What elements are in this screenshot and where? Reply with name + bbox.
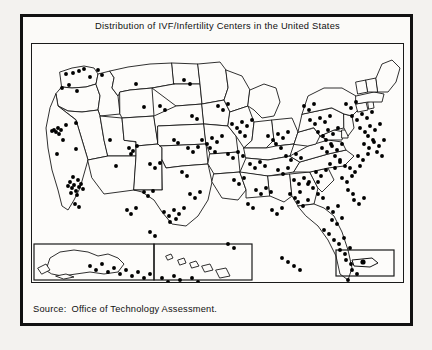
ivf-center-dot [226, 242, 230, 246]
ivf-center-dot [279, 146, 283, 150]
ivf-center-dot [50, 129, 54, 133]
source-note: Source:Office of Technology Assessment. [33, 304, 217, 314]
ivf-center-dot [73, 202, 77, 206]
ivf-center-dot [180, 170, 184, 174]
ivf-center-dot [88, 75, 92, 79]
ivf-center-dot [338, 248, 342, 252]
ivf-center-dot [67, 83, 71, 87]
ivf-center-dot [296, 200, 300, 204]
ivf-center-dot [363, 130, 367, 134]
ivf-center-dot [61, 138, 65, 142]
ivf-center-dot [215, 140, 219, 144]
ivf-center-dot [193, 196, 197, 200]
ivf-center-dot [64, 72, 68, 76]
ivf-center-dot [361, 158, 365, 162]
ivf-center-dot [342, 236, 346, 240]
ivf-center-dot [220, 134, 224, 138]
ivf-center-dot [301, 204, 305, 208]
ivf-center-dot [333, 154, 337, 158]
ivf-center-dot [328, 162, 332, 166]
ivf-center-dot [64, 123, 68, 127]
ivf-center-dot [114, 164, 118, 168]
ivf-center-dot [286, 166, 290, 170]
ivf-center-dot [357, 202, 361, 206]
ivf-center-dot [88, 264, 92, 268]
ivf-center-dot [70, 186, 74, 190]
ivf-center-dot [348, 166, 352, 170]
ivf-center-dot [167, 214, 171, 218]
ivf-center-dot [338, 160, 342, 164]
ivf-center-dot [269, 190, 273, 194]
ivf-center-dot [343, 252, 347, 256]
ivf-center-dot [235, 126, 239, 130]
ivf-center-dot [82, 67, 86, 71]
ivf-center-dot [160, 276, 164, 280]
ivf-center-dot [355, 118, 359, 122]
ivf-center-dot [324, 168, 328, 172]
ivf-center-dot [348, 246, 352, 250]
ivf-center-dot [327, 232, 331, 236]
ivf-center-dot [134, 82, 138, 86]
ivf-center-dot [71, 175, 75, 179]
ivf-center-dot [258, 160, 262, 164]
ivf-center-dot [198, 190, 202, 194]
ivf-center-dot [326, 206, 330, 210]
ivf-center-dot [302, 176, 306, 180]
ivf-center-dot [316, 130, 320, 134]
ivf-center-dot [349, 106, 353, 110]
ivf-center-dot [323, 120, 327, 124]
ivf-center-dot [130, 274, 134, 278]
ivf-center-dot [151, 189, 155, 193]
ivf-center-dot [135, 144, 139, 148]
ivf-center-dot [251, 206, 255, 210]
ivf-center-dot [96, 68, 100, 72]
state-outlines [46, 60, 400, 280]
ivf-center-dot [313, 122, 317, 126]
ivf-center-dot [178, 278, 182, 282]
ivf-center-dot [230, 122, 234, 126]
ivf-center-dot [297, 182, 301, 186]
ivf-center-dot [307, 108, 311, 112]
ivf-center-dot [142, 105, 146, 109]
ivf-center-dot [106, 270, 110, 274]
ivf-center-dot [75, 193, 79, 197]
ivf-center-dot [337, 242, 341, 246]
ivf-center-dot [316, 180, 320, 184]
ivf-center-dot [274, 142, 278, 146]
united-states-map[interactable] [32, 44, 403, 282]
ivf-center-dot [373, 128, 377, 132]
ivf-center-dot [242, 176, 246, 180]
ivf-center-dot [129, 152, 133, 156]
ivf-center-dot [94, 268, 98, 272]
ivf-center-dot [275, 212, 279, 216]
ivf-center-dot [319, 174, 323, 178]
ivf-center-dot [185, 174, 189, 178]
ivf-center-dot [259, 192, 263, 196]
ivf-center-dot [331, 132, 335, 136]
ivf-center-dot [365, 116, 369, 120]
ivf-center-dot [330, 218, 334, 222]
ivf-center-dot [302, 104, 306, 108]
ivf-center-dot [172, 138, 176, 142]
ivf-center-dot [351, 192, 355, 196]
ivf-center-dot [162, 210, 166, 214]
ivf-center-dot [312, 102, 316, 106]
ivf-center-dot [174, 217, 178, 221]
ivf-center-dot [77, 69, 81, 73]
ivf-center-dot [231, 156, 235, 160]
ivf-center-dot [328, 114, 332, 118]
ivf-center-dot [345, 180, 349, 184]
source-label: Source: [33, 304, 66, 314]
ivf-center-dot [66, 184, 70, 188]
ivf-center-dot [294, 152, 298, 156]
ivf-center-dot [346, 278, 350, 282]
ivf-center-dot [266, 134, 270, 138]
ivf-center-dot [148, 272, 152, 276]
ivf-center-dot [237, 182, 241, 186]
ivf-center-dot [340, 216, 344, 220]
ivf-center-dot [270, 208, 274, 212]
ivf-center-dot [298, 268, 302, 272]
ivf-center-dot [358, 126, 362, 130]
ivf-center-dot [168, 220, 172, 224]
ivf-center-dot [292, 264, 296, 268]
